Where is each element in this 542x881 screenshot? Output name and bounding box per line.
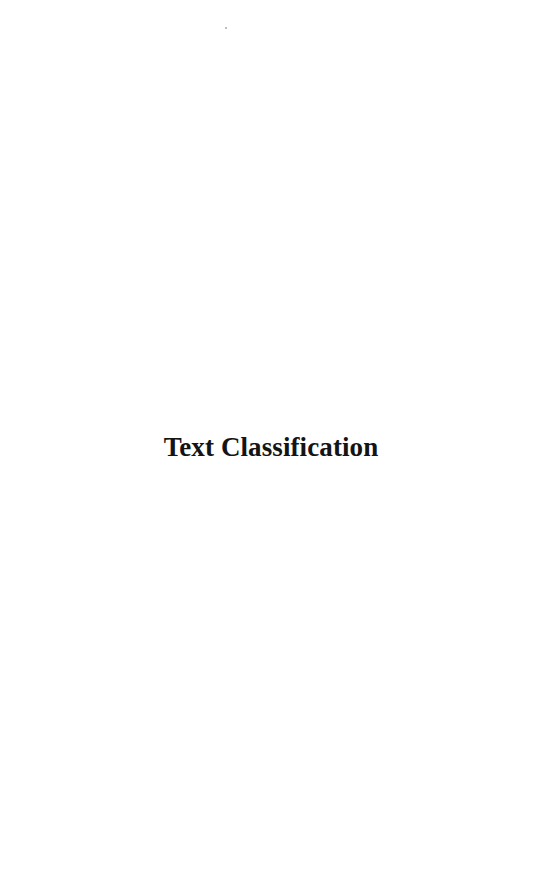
scan-speck — [225, 27, 227, 29]
book-page: Text Classification — [0, 0, 542, 881]
chapter-title: Text Classification — [0, 432, 542, 462]
